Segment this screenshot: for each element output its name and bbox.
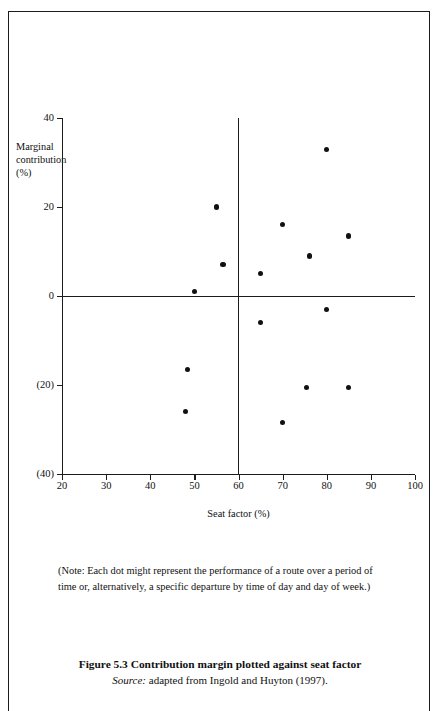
scatter-point xyxy=(192,289,197,294)
scatter-point xyxy=(220,262,225,267)
x-tick-label: 50 xyxy=(189,481,200,492)
scatter-point xyxy=(307,253,312,258)
scatter-point xyxy=(346,233,351,238)
x-tick-label: 40 xyxy=(145,481,156,492)
y-axis-title: Marginal contribution (%) xyxy=(16,140,66,180)
x-tick-label: 70 xyxy=(277,481,288,492)
figure-caption: Figure 5.3 Contribution margin plotted a… xyxy=(30,657,410,688)
figure-note: (Note: Each dot might represent the perf… xyxy=(58,563,384,595)
y-tick-label: 0 xyxy=(49,291,54,302)
x-tick-label: 20 xyxy=(57,481,68,492)
scatter-point xyxy=(185,367,190,372)
y-tick-label: 20 xyxy=(44,202,55,213)
y-tick-mark xyxy=(57,296,62,297)
scatter-point xyxy=(258,320,263,325)
y-axis-title-line-1: Marginal xyxy=(16,140,66,153)
scatter-point xyxy=(324,147,329,152)
x-tick-label: 60 xyxy=(233,481,244,492)
source-label: Source: xyxy=(112,674,146,686)
y-tick-label: 40 xyxy=(44,113,55,124)
x-tick-label: 80 xyxy=(322,481,333,492)
scatter-point xyxy=(346,385,351,390)
x-tick-label: 90 xyxy=(366,481,377,492)
scatter-point xyxy=(258,271,263,276)
scatter-point xyxy=(280,222,285,227)
x-axis-title: Seat factor (%) xyxy=(62,508,415,519)
scatter-point xyxy=(183,409,188,414)
y-tick-mark xyxy=(57,118,62,119)
x-tick-label: 100 xyxy=(407,481,423,492)
scatter-plot-area: 40200(20)(40) 2030405060708090100 xyxy=(62,118,415,474)
scatter-point xyxy=(280,420,285,425)
sixty-percent-reference-line xyxy=(238,118,239,474)
y-tick-label: (20) xyxy=(37,380,55,391)
x-tick-label: 30 xyxy=(101,481,112,492)
scatter-point xyxy=(214,204,219,209)
figure-caption-title: Figure 5.3 Contribution margin plotted a… xyxy=(30,657,410,672)
y-axis-title-line-3: (%) xyxy=(16,166,66,179)
scatter-point xyxy=(304,385,309,390)
y-tick-label: (40) xyxy=(37,469,55,480)
scatter-point xyxy=(324,307,329,312)
y-tick-mark xyxy=(57,385,62,386)
y-axis-title-line-2: contribution xyxy=(16,153,66,166)
figure-caption-source: Source: adapted from Ingold and Huyton (… xyxy=(30,673,410,688)
source-text: adapted from Ingold and Huyton (1997). xyxy=(146,674,328,686)
y-tick-mark xyxy=(57,207,62,208)
